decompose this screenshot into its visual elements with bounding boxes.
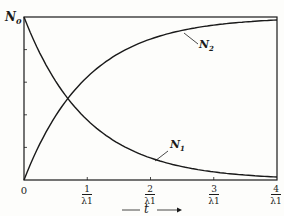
- curve-n1: [24, 17, 277, 177]
- x-tick-3: 3λ1: [204, 184, 224, 206]
- series-label-n2: N2: [199, 39, 214, 55]
- x-axis-label: t: [144, 202, 149, 216]
- n1-leader-line: [155, 151, 168, 161]
- x-tick-4: 4λ1: [266, 184, 284, 206]
- n2-leader-line: [184, 33, 198, 44]
- series-label-n1: N1: [170, 139, 185, 155]
- x-tick-1: 1λ1: [77, 184, 97, 206]
- t-arrow-head: [177, 208, 182, 213]
- plot-frame: [24, 17, 277, 180]
- y-top-label: N0: [5, 11, 22, 27]
- x-tick-2: 2λ1: [140, 184, 160, 206]
- x-tick-0: 0: [14, 186, 34, 196]
- curve-n2: [24, 20, 277, 180]
